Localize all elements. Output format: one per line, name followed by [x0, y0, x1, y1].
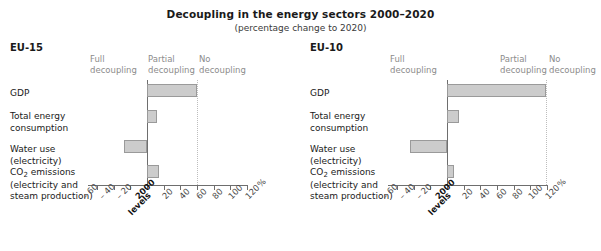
- bar-total-energy-consumption-eu10: [447, 110, 459, 123]
- plot-area-eu10: [300, 80, 601, 185]
- zone-label-line1: Full: [90, 54, 152, 65]
- bar-total-energy-consumption-eu15: [147, 110, 157, 123]
- bar-gdp-eu10: [447, 84, 546, 97]
- bar-co2-emissions-eu10: [447, 165, 454, 178]
- ticklabel-20-eu10: 20: [460, 186, 475, 201]
- bar-gdp-eu15: [147, 84, 197, 97]
- zone-full-decoupling-eu15: Full decoupling: [90, 54, 152, 76]
- ticklabel-80-eu15: 80: [210, 186, 225, 201]
- gridline-no-decoupling-eu10: [546, 80, 548, 185]
- panel-title-eu10: EU-10: [310, 42, 343, 53]
- bar-co2-emissions-eu15: [147, 165, 159, 178]
- ticklabel-80-eu10: 80: [510, 186, 525, 201]
- plot-area-eu15: [0, 80, 300, 185]
- zone-label-line1: Full: [390, 54, 452, 65]
- zone-label-line1: No: [549, 54, 601, 65]
- zone-label-line2: decoupling: [549, 65, 601, 76]
- panel-eu10: EU-10 Full decoupling Partial decoupling…: [300, 40, 601, 251]
- zone-label-line2: decoupling: [390, 65, 452, 76]
- bar-water-use-eu10: [410, 140, 447, 153]
- gridline-no-decoupling-eu15: [197, 80, 199, 185]
- zone-no-decoupling-eu10: No decoupling: [549, 54, 601, 76]
- zone-label-line2: decoupling: [90, 65, 152, 76]
- zone-label-line2: decoupling: [199, 65, 261, 76]
- panel-title-eu15: EU-15: [10, 42, 43, 53]
- chart-subtitle: (percentage change to 2020): [0, 23, 601, 33]
- zone-label-line1: No: [199, 54, 261, 65]
- chart-title: Decoupling in the energy sectors 2000–20…: [0, 8, 601, 20]
- bar-water-use-eu15: [124, 140, 147, 153]
- zone-full-decoupling-eu10: Full decoupling: [390, 54, 452, 76]
- panel-eu15: EU-15 Full decoupling Partial decoupling…: [0, 40, 300, 251]
- zone-no-decoupling-eu15: No decoupling: [199, 54, 261, 76]
- ticklabel-20-eu15: 20: [160, 186, 175, 201]
